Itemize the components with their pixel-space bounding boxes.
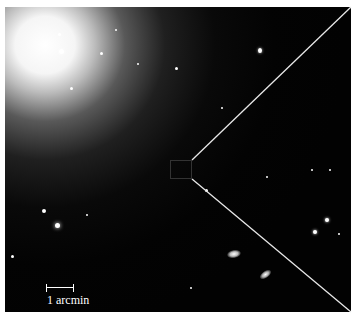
- zoom-line-bottom: [192, 179, 351, 312]
- zoom-indicator-lines: [0, 0, 354, 315]
- zoom-line-top: [192, 7, 351, 160]
